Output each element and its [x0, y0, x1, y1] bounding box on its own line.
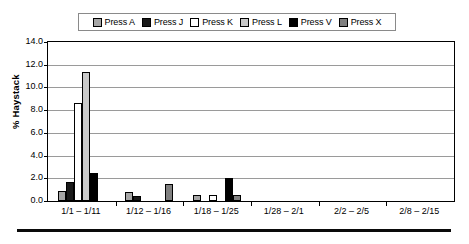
legend-swatch-icon — [190, 18, 199, 27]
x-axis-tick-label: 2/2 – 2/5 — [334, 206, 369, 216]
y-axis-tick-label: 4.0 — [30, 151, 43, 160]
bar-group — [116, 42, 184, 201]
legend-item[interactable]: Press L — [240, 18, 282, 27]
bar-group — [48, 42, 116, 201]
bar[interactable] — [82, 72, 90, 201]
bar-groups — [48, 42, 454, 201]
legend-swatch-icon — [93, 18, 102, 27]
legend-swatch-icon — [240, 18, 249, 27]
bar-group — [251, 42, 319, 201]
legend-item-label: Press J — [154, 18, 183, 27]
y-axis-tick-label: 8.0 — [30, 105, 43, 114]
legend-swatch-icon — [289, 18, 298, 27]
legend-item-label: Press L — [252, 18, 282, 27]
x-axis-tick-label: 1/18 – 1/25 — [194, 206, 239, 216]
chart-page: Press APress JPress KPress LPress VPress… — [0, 0, 469, 244]
bar[interactable] — [74, 103, 82, 201]
bar[interactable] — [193, 195, 201, 201]
legend-item-label: Press X — [351, 18, 382, 27]
bar[interactable] — [58, 191, 66, 201]
y-axis-tick-label: 14.0 — [25, 37, 43, 46]
x-axis-tick-label: 1/28 – 2/1 — [264, 206, 304, 216]
y-axis-title: % Haystack — [10, 74, 21, 129]
y-axis-tick — [44, 201, 48, 202]
bar[interactable] — [209, 195, 217, 201]
plot-area — [47, 41, 455, 202]
legend-item[interactable]: Press A — [93, 18, 135, 27]
legend-item[interactable]: Press X — [339, 18, 382, 27]
bar-group — [183, 42, 251, 201]
legend-item-label: Press A — [105, 18, 135, 27]
bar[interactable] — [133, 196, 141, 201]
legend-item[interactable]: Press J — [142, 18, 183, 27]
bar[interactable] — [125, 192, 133, 201]
bar-group — [386, 42, 454, 201]
bar[interactable] — [165, 184, 173, 201]
x-axis-tick-label: 2/8 – 2/15 — [399, 206, 439, 216]
chart-legend: Press APress JPress KPress LPress VPress… — [78, 13, 396, 31]
x-axis-tick-label: 1/1 – 1/11 — [61, 206, 100, 216]
legend-swatch-icon — [142, 18, 151, 27]
bar[interactable] — [225, 178, 233, 201]
y-axis-tick-label: 2.0 — [30, 173, 43, 182]
x-axis-labels: 1/1 – 1/111/12 – 1/161/18 – 1/251/28 – 2… — [47, 206, 455, 220]
x-axis-tick-label: 1/12 – 1/16 — [126, 206, 171, 216]
y-axis-tick-label: 0.0 — [30, 196, 43, 205]
y-axis-tick-label: 10.0 — [25, 82, 43, 91]
y-axis-tick-label: 6.0 — [30, 128, 43, 137]
legend-item-label: Press K — [202, 18, 233, 27]
legend-item-label: Press V — [301, 18, 332, 27]
bar-group — [319, 42, 387, 201]
y-axis-tick-label: 12.0 — [25, 60, 43, 69]
bar[interactable] — [66, 182, 74, 201]
legend-item[interactable]: Press K — [190, 18, 233, 27]
bar[interactable] — [90, 173, 98, 201]
legend-item[interactable]: Press V — [289, 18, 332, 27]
bottom-divider — [17, 229, 451, 232]
bar[interactable] — [233, 195, 241, 201]
legend-swatch-icon — [339, 18, 348, 27]
y-axis-title-wrap: % Haystack — [14, 41, 28, 201]
